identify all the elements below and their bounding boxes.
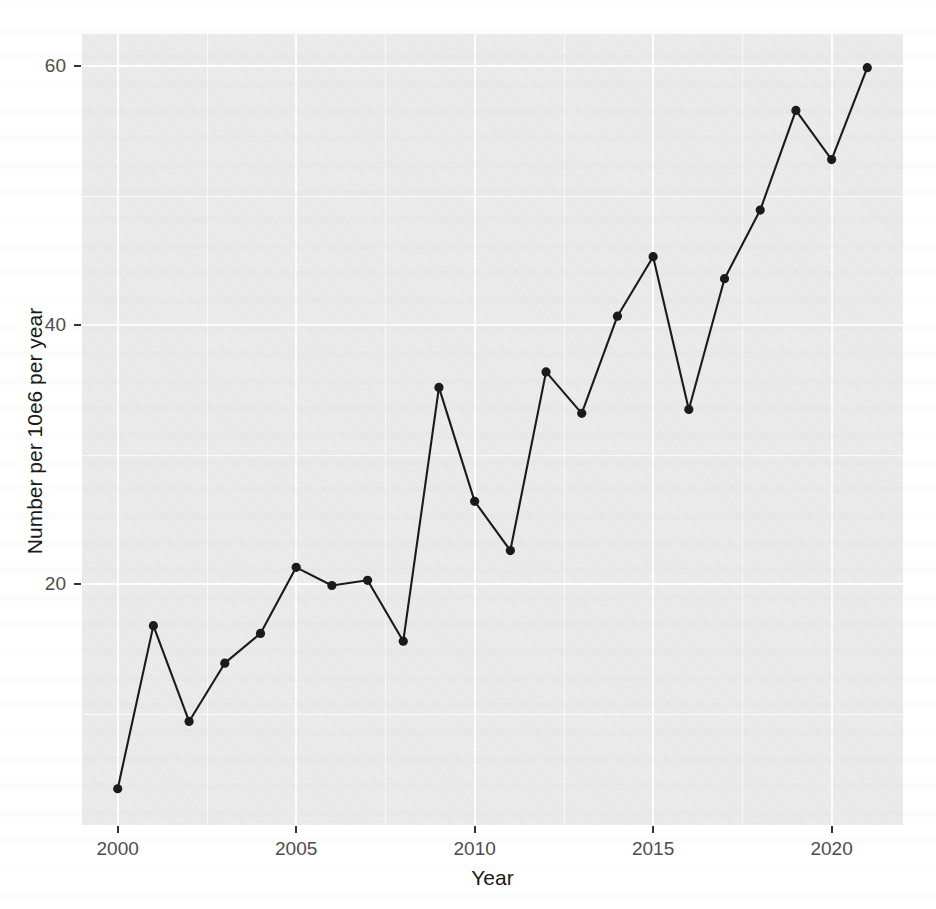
x-axis-tick-label: 2000: [97, 838, 139, 860]
chart-figure: 204060 20002005201020152020 Year Number …: [0, 0, 936, 909]
x-axis-tick-label: 2005: [275, 838, 317, 860]
data-point: [720, 274, 729, 283]
y-axis-tick-label: 40: [45, 314, 66, 336]
x-axis-tick-mark: [117, 826, 119, 833]
data-point: [470, 497, 479, 506]
data-point: [863, 63, 872, 72]
data-point: [756, 205, 765, 214]
data-point: [684, 405, 693, 414]
x-axis-tick-mark: [652, 826, 654, 833]
y-axis-tick-mark: [74, 324, 81, 326]
data-point: [220, 659, 229, 668]
data-point: [506, 546, 515, 555]
series-line: [118, 68, 868, 789]
data-point: [434, 383, 443, 392]
data-point: [149, 621, 158, 630]
data-point: [113, 784, 122, 793]
data-point: [184, 717, 193, 726]
data-point: [363, 576, 372, 585]
x-axis-tick-mark: [831, 826, 833, 833]
series-points: [113, 63, 872, 793]
x-axis-tick-mark: [474, 826, 476, 833]
data-point: [791, 106, 800, 115]
data-point: [399, 637, 408, 646]
data-point: [292, 563, 301, 572]
data-point: [577, 409, 586, 418]
x-axis-tick-label: 2010: [454, 838, 496, 860]
x-axis-tick-mark: [295, 826, 297, 833]
data-point: [327, 581, 336, 590]
plot-panel: [82, 34, 903, 825]
x-axis-tick-label: 2020: [810, 838, 852, 860]
data-point: [613, 312, 622, 321]
data-point: [256, 629, 265, 638]
data-point: [541, 367, 550, 376]
y-axis-tick-label: 20: [45, 573, 66, 595]
x-axis-title: Year: [82, 866, 903, 890]
data-series-layer: [82, 34, 903, 825]
x-axis-tick-label: 2015: [632, 838, 674, 860]
y-axis-tick-mark: [74, 65, 81, 67]
data-point: [649, 252, 658, 261]
y-axis-tick-mark: [74, 583, 81, 585]
y-axis-title: Number per 10e6 per year: [23, 36, 47, 827]
data-point: [827, 155, 836, 164]
y-axis-tick-label: 60: [45, 55, 66, 77]
